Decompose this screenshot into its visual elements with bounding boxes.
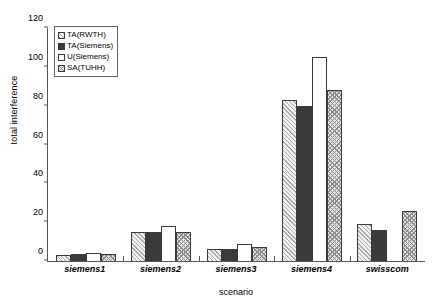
legend-item-usiemens: U(Siemens) (58, 52, 113, 62)
bar-chart: total interference 020406080100120 sieme… (0, 0, 436, 308)
legend-item-label: TA(Siemens) (67, 41, 113, 51)
y-tick-label-100: 100 (28, 52, 48, 62)
legend-item-label: SA(TUHH) (67, 63, 105, 73)
x-axis-tick-labels: siemens1siemens2siemens3siemens4swisscom (47, 264, 425, 274)
x-tick-label-siemens2: siemens2 (123, 264, 199, 274)
legend-swatch-icon (58, 43, 65, 50)
bar-siemens2-tasiemens (146, 232, 161, 261)
bar-siemens3-usiemens (237, 244, 252, 261)
legend-item-satuhh: SA(TUHH) (58, 63, 113, 73)
legend-swatch-icon (58, 65, 65, 72)
bar-siemens3-tarwth (207, 249, 222, 261)
legend-item-label: U(Siemens) (67, 52, 109, 62)
x-tick-label-siemens1: siemens1 (47, 264, 123, 274)
bar-siemens4-usiemens (312, 57, 327, 261)
bar-swisscom-satuhh (402, 211, 417, 261)
y-axis-title: total interference (9, 50, 19, 170)
bar-siemens4-tasiemens (297, 106, 312, 261)
bar-siemens1-satuhh (101, 254, 116, 261)
bar-siemens4-satuhh (327, 90, 342, 261)
legend-item-tarwth: TA(RWTH) (58, 30, 113, 40)
x-tick-label-siemens3: siemens3 (198, 264, 274, 274)
y-tick-label-20: 20 (33, 207, 48, 217)
bar-siemens3-tasiemens (222, 249, 237, 261)
bar-siemens4-tarwth (282, 100, 297, 261)
bar-siemens2-usiemens (161, 226, 176, 261)
bar-group-siemens4 (274, 28, 349, 261)
bar-swisscom-tarwth (357, 224, 372, 261)
bar-group-swisscom (350, 28, 425, 261)
y-tick-label-80: 80 (33, 91, 48, 101)
x-tick-label-siemens4: siemens4 (274, 264, 350, 274)
bar-siemens1-tasiemens (71, 254, 86, 261)
legend: TA(RWTH)TA(Siemens)U(Siemens)SA(TUHH) (54, 26, 118, 77)
bar-siemens2-tarwth (131, 232, 146, 261)
bar-siemens1-tarwth (56, 255, 71, 261)
bar-group-siemens2 (123, 28, 198, 261)
bar-siemens2-satuhh (176, 232, 191, 261)
legend-swatch-icon (58, 32, 65, 39)
legend-swatch-icon (58, 54, 65, 61)
bar-siemens3-satuhh (252, 247, 267, 261)
bar-siemens1-usiemens (86, 253, 101, 261)
legend-item-label: TA(RWTH) (67, 30, 106, 40)
bar-group-siemens3 (199, 28, 274, 261)
bar-swisscom-tasiemens (372, 230, 387, 261)
x-tick-label-swisscom: swisscom (349, 264, 425, 274)
legend-item-tasiemens: TA(Siemens) (58, 41, 113, 51)
y-tick-label-0: 0 (38, 246, 48, 256)
y-tick-label-120: 120 (28, 13, 48, 23)
y-tick-label-60: 60 (33, 130, 48, 140)
y-tick-label-40: 40 (33, 168, 48, 178)
x-axis-title: scenario (47, 287, 425, 297)
